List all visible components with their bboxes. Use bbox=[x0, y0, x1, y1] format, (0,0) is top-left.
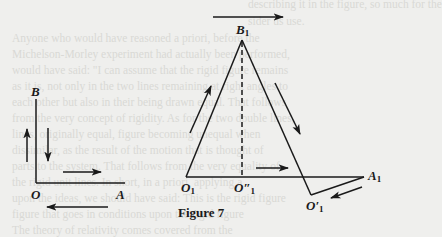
arrow-down-left-icon bbox=[331, 187, 362, 198]
label-a1: A1 bbox=[368, 168, 381, 184]
arrow-down-right-icon bbox=[275, 83, 300, 134]
label-b1: B1 bbox=[236, 22, 249, 38]
label-o1-double-prime: O″1 bbox=[234, 180, 255, 196]
label-b: B bbox=[31, 84, 40, 100]
label-o1: O1 bbox=[181, 180, 195, 196]
line-b1-o1prime bbox=[242, 40, 311, 195]
line-o1prime-a1 bbox=[311, 177, 364, 195]
label-o1-prime: O′1 bbox=[306, 198, 324, 214]
arrow-up-right-icon bbox=[190, 86, 211, 133]
label-o: O bbox=[31, 187, 40, 203]
figure-caption: Figure 7 bbox=[178, 205, 224, 221]
line-o1-b1 bbox=[186, 40, 242, 177]
label-a: A bbox=[116, 187, 125, 203]
